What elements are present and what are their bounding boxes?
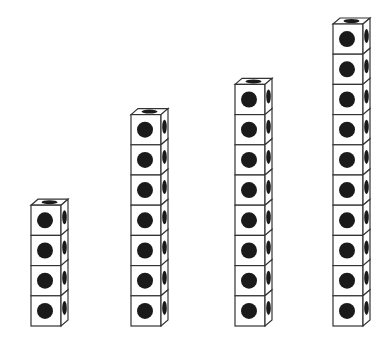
front-dot-icon	[241, 303, 257, 319]
side-dot-icon	[162, 120, 167, 134]
front-dot-icon	[241, 92, 257, 108]
side-dot-icon	[266, 90, 271, 104]
cube	[131, 229, 168, 265]
front-dot-icon	[137, 273, 153, 289]
side-dot-icon	[266, 150, 271, 164]
front-dot-icon	[339, 92, 355, 108]
side-dot-icon	[266, 271, 271, 285]
side-dot-icon	[266, 241, 271, 255]
front-dot-icon	[339, 122, 355, 138]
cube	[31, 229, 68, 265]
top-peg-hole	[142, 110, 158, 114]
front-dot-icon	[241, 182, 257, 198]
front-dot-icon	[241, 152, 257, 168]
cube	[235, 290, 272, 326]
side-dot-icon	[364, 301, 369, 315]
stack-2	[131, 109, 168, 326]
stack-4	[333, 18, 370, 326]
side-dot-icon	[364, 241, 369, 255]
cube	[333, 139, 370, 175]
cube	[333, 229, 370, 265]
front-dot-icon	[339, 152, 355, 168]
cube	[31, 290, 68, 326]
side-dot-icon	[364, 180, 369, 194]
front-dot-icon	[137, 122, 153, 138]
cube	[235, 139, 272, 175]
top-peg-hole	[344, 19, 360, 23]
side-dot-icon	[364, 120, 369, 134]
side-dot-icon	[266, 210, 271, 224]
front-dot-icon	[37, 212, 53, 228]
cube	[131, 290, 168, 326]
cube	[333, 199, 370, 235]
side-dot-icon	[162, 210, 167, 224]
cube	[131, 260, 168, 296]
side-dot-icon	[62, 241, 67, 255]
cube	[31, 199, 68, 235]
cube	[333, 78, 370, 114]
side-dot-icon	[364, 90, 369, 104]
side-dot-icon	[266, 120, 271, 134]
side-dot-icon	[266, 301, 271, 315]
cube	[333, 109, 370, 145]
cube	[131, 139, 168, 175]
side-dot-icon	[62, 271, 67, 285]
side-dot-icon	[364, 59, 369, 73]
side-dot-icon	[162, 150, 167, 164]
front-dot-icon	[137, 152, 153, 168]
front-dot-icon	[339, 243, 355, 259]
front-dot-icon	[339, 212, 355, 228]
front-dot-icon	[241, 212, 257, 228]
cube-towers-diagram	[0, 0, 386, 345]
cube	[333, 48, 370, 84]
side-dot-icon	[162, 301, 167, 315]
front-dot-icon	[37, 273, 53, 289]
front-dot-icon	[137, 182, 153, 198]
side-dot-icon	[364, 271, 369, 285]
cube	[235, 169, 272, 205]
side-dot-icon	[162, 271, 167, 285]
front-dot-icon	[339, 273, 355, 289]
front-dot-icon	[241, 273, 257, 289]
side-dot-icon	[364, 210, 369, 224]
top-peg-hole	[246, 79, 262, 83]
cube	[235, 199, 272, 235]
front-dot-icon	[137, 243, 153, 259]
side-dot-icon	[266, 180, 271, 194]
cube	[235, 109, 272, 145]
front-dot-icon	[339, 31, 355, 47]
front-dot-icon	[241, 122, 257, 138]
side-dot-icon	[162, 241, 167, 255]
cube	[31, 260, 68, 296]
front-dot-icon	[37, 243, 53, 259]
cube	[235, 229, 272, 265]
front-dot-icon	[37, 303, 53, 319]
top-peg-hole	[42, 200, 58, 204]
stack-3	[235, 78, 272, 326]
front-dot-icon	[137, 303, 153, 319]
cube	[131, 169, 168, 205]
cube	[333, 260, 370, 296]
side-dot-icon	[62, 301, 67, 315]
front-dot-icon	[339, 182, 355, 198]
cube	[131, 199, 168, 235]
front-dot-icon	[241, 243, 257, 259]
side-dot-icon	[162, 180, 167, 194]
front-dot-icon	[339, 61, 355, 77]
stack-1	[31, 199, 68, 326]
side-dot-icon	[364, 150, 369, 164]
cube	[235, 78, 272, 114]
cube	[131, 109, 168, 145]
side-dot-icon	[62, 210, 67, 224]
cube	[235, 260, 272, 296]
cube	[333, 290, 370, 326]
cube	[333, 169, 370, 205]
side-dot-icon	[364, 29, 369, 43]
cube	[333, 18, 370, 54]
front-dot-icon	[339, 303, 355, 319]
front-dot-icon	[137, 212, 153, 228]
